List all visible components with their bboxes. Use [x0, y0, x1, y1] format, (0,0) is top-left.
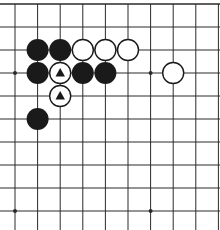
white-stone-disc [118, 40, 139, 61]
black-stone-disc [27, 39, 49, 61]
star-point [149, 209, 153, 213]
white-stone [72, 40, 93, 61]
go-board [0, 0, 220, 230]
white-stone-disc [163, 63, 184, 84]
black-stone [27, 108, 49, 130]
black-stone-disc [27, 108, 49, 130]
white-stone [163, 63, 184, 84]
star-point [13, 209, 17, 213]
white-stone [95, 40, 116, 61]
white-stone-disc [95, 40, 116, 61]
white-stone [50, 86, 71, 107]
white-stone [50, 63, 71, 84]
black-stone [94, 62, 116, 84]
black-stone [72, 62, 94, 84]
black-stone-disc [94, 62, 116, 84]
black-stone [27, 39, 49, 61]
black-stone-disc [49, 39, 71, 61]
black-stone-disc [72, 62, 94, 84]
white-stone [118, 40, 139, 61]
black-stone-disc [27, 62, 49, 84]
black-stone [27, 62, 49, 84]
star-point [13, 71, 17, 75]
black-stone [49, 39, 71, 61]
white-stone-disc [72, 40, 93, 61]
star-point [149, 71, 153, 75]
